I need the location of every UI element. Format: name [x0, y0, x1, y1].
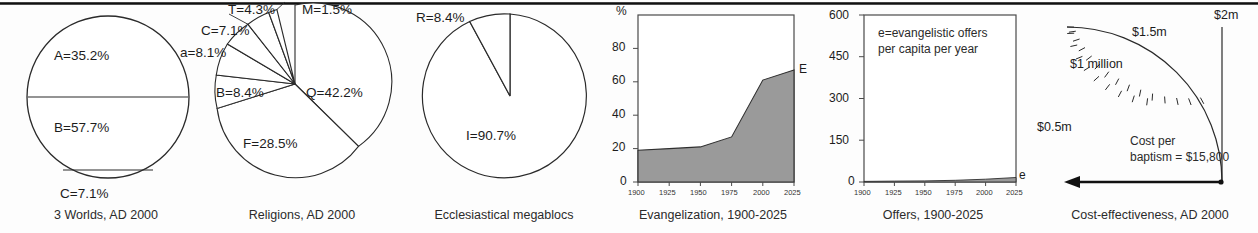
y-axis-unit: %	[616, 4, 627, 18]
slice-label-a: A=35.2%	[54, 48, 109, 63]
arc-label-1-million: $1 million	[1070, 57, 1123, 71]
x-ticks	[638, 182, 794, 186]
leader-m	[277, 2, 285, 10]
offers-note-line-2: per capita per year	[878, 42, 978, 57]
x-tick-1950: 1950	[690, 188, 707, 197]
cost-note-line-2: baptism = $15,800	[1130, 150, 1229, 165]
offers-note-line-1: e=evangelistic offers	[878, 26, 988, 41]
y-tick-0: 0	[848, 174, 855, 188]
megablocs-chart	[398, 0, 610, 200]
series-endpoint-label-e: e	[1019, 168, 1026, 182]
panel-caption-evangelization: Evangelization, 1900-2025	[604, 208, 822, 222]
baseline-endpoint-dot	[1218, 179, 1223, 184]
x-tick-2025: 2025	[1006, 188, 1023, 197]
panel-offers: 600 450 300 150 0 1900 1925 1950 1975 20…	[824, 0, 1042, 233]
x-tick-1950: 1950	[915, 188, 932, 197]
panel-caption-offers: Offers, 1900-2025	[824, 208, 1042, 222]
panel-cost-effectiveness: $0.5m $1 million $1.5m $2m Cost per bapt…	[1042, 0, 1258, 233]
three-worlds-chart	[0, 0, 212, 200]
x-tick-1975: 1975	[946, 188, 963, 197]
arc-label-2m: $2m	[1214, 8, 1238, 22]
x-tick-2000: 2000	[753, 188, 770, 197]
slice-label-c: C=7.1%	[201, 23, 249, 38]
x-tick-2000: 2000	[976, 188, 993, 197]
baseline-arrow-head	[1064, 176, 1080, 188]
cost-note-line-1: Cost per	[1130, 134, 1175, 149]
x-tick-1900: 1900	[628, 188, 645, 197]
slice-label-b: B=57.7%	[54, 120, 109, 135]
evangelization-chart	[604, 0, 822, 200]
y-tick-150: 150	[829, 133, 849, 147]
x-tick-2025: 2025	[784, 188, 801, 197]
y-tick-80: 80	[612, 40, 625, 54]
slice-label-t: T=4.3%	[228, 2, 275, 17]
slice-label-m: M=1.5%	[302, 2, 352, 17]
arc-label-0-5m: $0.5m	[1037, 120, 1072, 134]
slice-label-r: R=8.4%	[416, 10, 464, 25]
panel-caption-cost-effectiveness: Cost-effectiveness, AD 2000	[1042, 208, 1258, 222]
y-ticks	[633, 48, 638, 182]
y-tick-40: 40	[612, 107, 625, 121]
y-tick-600: 600	[829, 8, 849, 22]
x-tick-1925: 1925	[659, 188, 676, 197]
y-tick-300: 300	[829, 91, 849, 105]
y-tick-20: 20	[612, 140, 625, 154]
y-ticks	[859, 15, 864, 182]
panel-caption-three-worlds: 3 Worlds, AD 2000	[0, 208, 212, 222]
y-tick-0: 0	[620, 174, 627, 188]
pie-slices	[422, 14, 586, 178]
slice-label-b: B=8.4%	[216, 85, 264, 100]
panel-evangelization: % 80 60 40 20 0 1900 1925 1950 1975 2000…	[604, 0, 822, 233]
y-tick-60: 60	[612, 73, 625, 87]
x-tick-1900: 1900	[854, 188, 871, 197]
x-tick-1925: 1925	[885, 188, 902, 197]
slice-label-q: Q=42.2%	[306, 85, 363, 100]
slice-label-a: a=8.1%	[180, 45, 226, 60]
slice-label-f: F=28.5%	[243, 136, 297, 151]
panel-megablocs: R=8.4% I=90.7% Ecclesiastical megablocs	[398, 0, 610, 233]
arc-label-1-5m: $1.5m	[1132, 25, 1167, 39]
x-ticks	[864, 182, 1016, 186]
panel-three-worlds: A=35.2% B=57.7% C=7.1% 3 Worlds, AD 2000	[0, 0, 212, 233]
panel-religions: T=4.3% M=1.5% C=7.1% a=8.1% B=8.4% Q=42.…	[196, 0, 408, 233]
series-endpoint-label-e: E	[799, 62, 807, 76]
y-tick-450: 450	[829, 49, 849, 63]
slice-label-c: C=7.1%	[60, 186, 108, 201]
slice-label-i: I=90.7%	[466, 128, 516, 143]
panel-caption-megablocs: Ecclesiastical megablocs	[398, 208, 610, 222]
x-tick-1975: 1975	[721, 188, 738, 197]
panel-caption-religions: Religions, AD 2000	[196, 208, 408, 222]
